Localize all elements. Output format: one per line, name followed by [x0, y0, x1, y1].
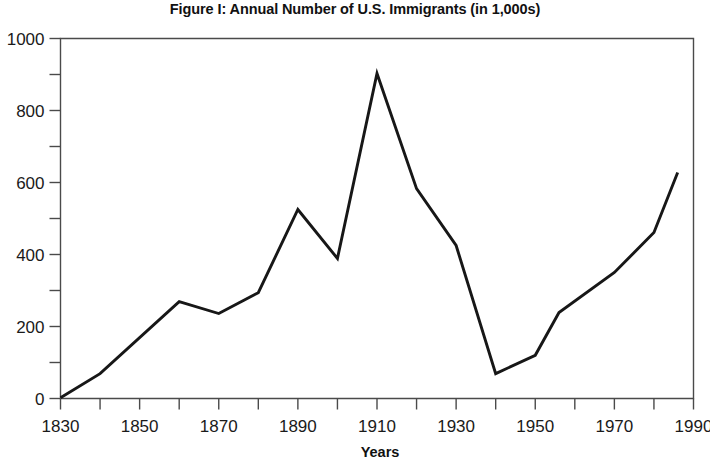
x-tick-label: 1890	[279, 417, 317, 436]
y-tick-label: 0	[35, 390, 44, 409]
tick-labels-group: 1830185018701890191019301950197019900200…	[7, 30, 710, 436]
x-tick-label: 1970	[595, 417, 633, 436]
x-tick-label: 1950	[516, 417, 554, 436]
line-chart-plot: 1830185018701890191019301950197019900200…	[0, 0, 710, 468]
y-tick-label: 800	[16, 102, 44, 121]
x-tick-label: 1910	[358, 417, 396, 436]
x-tick-label: 1990	[675, 417, 710, 436]
x-tick-label: 1830	[42, 417, 80, 436]
data-series-group	[61, 73, 678, 397]
plot-frame	[61, 39, 694, 399]
x-axis-label: Years	[0, 444, 710, 460]
x-tick-label: 1930	[437, 417, 475, 436]
axes-group	[61, 39, 694, 399]
x-tick-label: 1870	[200, 417, 238, 436]
x-tick-label: 1850	[121, 417, 159, 436]
y-tick-label: 200	[16, 318, 44, 337]
y-tick-label: 1000	[7, 30, 45, 49]
y-tick-label: 600	[16, 174, 44, 193]
figure-container: Figure I: Annual Number of U.S. Immigran…	[0, 0, 710, 468]
y-tick-label: 400	[16, 246, 44, 265]
data-series-line	[61, 73, 678, 397]
